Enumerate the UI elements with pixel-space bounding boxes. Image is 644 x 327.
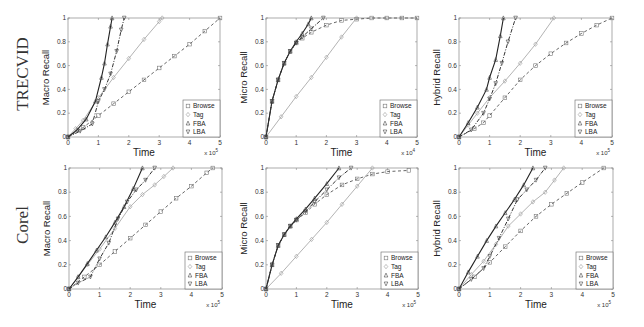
y-tick-label: 0.2 [255,261,264,268]
chart-panel-6: 01234500.20.40.60.81Timex 105Hybrid Reca… [431,164,615,310]
y-tick-label: 0 [260,285,264,292]
x-axis-label: Time [135,299,157,310]
legend-item-browse: Browse [195,254,217,261]
y-tick-label: 0.8 [448,188,457,195]
y-tick-label: 1 [62,14,66,21]
y-tick-label: 0.4 [448,86,457,93]
x-axis-label: Time [525,147,547,158]
legend: BrowseTagFBALBA [575,100,612,137]
legend-item-fba: FBA [391,272,404,279]
y-tick-label: 1 [453,14,457,21]
legend-item-tag: Tag [586,263,597,271]
x-tick-label: 0 [457,291,461,298]
legend-item-lba: LBA [195,280,208,287]
x-multiplier: x 105 [597,300,611,308]
x-tick-label: 5 [220,291,224,298]
legend-item-tag: Tag [390,111,401,119]
y-tick-label: 0.6 [255,213,264,220]
legend-item-browse: Browse [390,102,412,109]
legend-item-browse: Browse [585,102,607,109]
y-axis-label: Hybrid Recall [431,49,442,106]
x-multiplier: x 104 [401,148,415,156]
x-tick-label: 4 [190,291,194,298]
x-tick-label: 4 [386,291,390,298]
x-tick-label: 3 [550,291,554,298]
x-tick-label: 2 [127,139,131,146]
legend-item-browse: Browse [193,102,215,109]
y-tick-label: 0.8 [58,188,67,195]
x-tick-label: 4 [580,139,584,146]
y-axis-label: Macro Recall [40,50,51,105]
y-tick-label: 0.2 [448,261,457,268]
x-multiplier: x 105 [402,300,416,308]
y-tick-label: 0 [453,133,457,140]
legend-item-lba: LBA [193,128,206,135]
y-tick-label: 0.6 [448,213,457,220]
x-tick-label: 1 [98,291,102,298]
x-tick-label: 1 [488,139,492,146]
y-axis-label: Micro Recall [238,202,249,254]
legend-item-tag: Tag [193,111,204,119]
legend-item-browse: Browse [586,254,608,261]
chart-panel-5: 01234500.20.40.60.81Timex 105Micro Recal… [238,164,420,310]
legend-item-fba: FBA [193,120,206,127]
x-tick-label: 5 [218,139,222,146]
x-tick-label: 0 [457,139,461,146]
legend-item-fba: FBA [586,272,599,279]
y-tick-label: 0.8 [57,38,66,45]
y-tick-label: 0.6 [255,62,264,69]
x-tick-label: 5 [415,139,419,146]
x-tick-label: 5 [610,139,614,146]
legend-item-lba: LBA [586,280,599,287]
x-tick-label: 2 [325,139,329,146]
x-tick-label: 1 [97,139,101,146]
y-tick-label: 0.2 [58,261,67,268]
chart-panel-1: 01234500.20.40.60.81Timex 105Macro Recal… [40,14,222,158]
legend-item-fba: FBA [195,272,208,279]
x-tick-label: 5 [416,291,420,298]
legend: BrowseTagFBALBA [381,252,418,289]
x-axis-label: Time [331,147,353,158]
y-tick-label: 0.6 [58,213,67,220]
y-tick-label: 1 [260,164,264,171]
x-axis-label: Time [133,147,155,158]
y-tick-label: 1 [453,164,457,171]
x-tick-label: 3 [355,139,359,146]
legend-item-lba: LBA [391,280,404,287]
y-tick-label: 1 [63,164,67,171]
y-tick-label: 0.6 [57,62,66,69]
chart-panel-4: 01234500.20.40.60.81Timex 105Macro Recal… [41,164,224,310]
y-tick-label: 0.2 [448,109,457,116]
x-tick-label: 3 [355,291,359,298]
y-axis-label: Micro Recall [238,51,249,103]
y-tick-label: 0 [63,285,67,292]
x-tick-label: 5 [611,291,615,298]
y-tick-label: 0.4 [57,86,66,93]
x-tick-label: 1 [294,139,298,146]
x-tick-label: 4 [385,139,389,146]
y-tick-label: 0.4 [448,237,457,244]
x-tick-label: 2 [325,291,329,298]
y-tick-label: 0.4 [58,237,67,244]
x-tick-label: 2 [519,291,523,298]
y-axis-label: Macro Recall [41,201,52,256]
legend-item-tag: Tag [391,263,402,271]
legend: BrowseTagFBALBA [183,100,220,137]
legend: BrowseTagFBALBA [185,252,222,289]
y-tick-label: 0.2 [57,109,66,116]
legend: BrowseTagFBALBA [576,252,613,289]
x-multiplier: x 105 [204,148,218,156]
legend-item-browse: Browse [391,254,413,261]
x-tick-label: 0 [264,139,268,146]
y-tick-label: 0 [453,285,457,292]
x-tick-label: 1 [488,291,492,298]
y-tick-label: 0.4 [255,86,264,93]
legend-item-tag: Tag [195,263,206,271]
x-tick-label: 0 [66,139,70,146]
x-tick-label: 3 [159,291,163,298]
y-tick-label: 0 [62,133,66,140]
x-axis-label: Time [331,299,353,310]
x-tick-label: 4 [188,139,192,146]
chart-panel-2: 01234500.20.40.60.81Timex 104Micro Recal… [238,14,419,158]
y-tick-label: 0.2 [255,109,264,116]
